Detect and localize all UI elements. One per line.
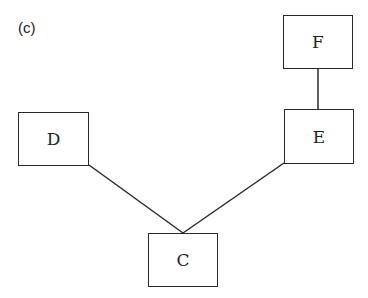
node-d: D (18, 112, 89, 166)
node-c: C (148, 233, 218, 287)
edge-e-c (183, 163, 284, 233)
edge-d-c (89, 165, 183, 233)
panel-label: (c) (18, 19, 36, 36)
node-f: F (283, 15, 353, 69)
node-e: E (284, 109, 354, 164)
